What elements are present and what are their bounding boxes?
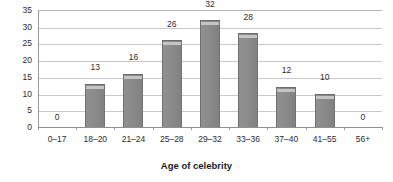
- bar-top-highlight: [277, 89, 295, 92]
- x-tick: [191, 127, 192, 130]
- x-tick-label: 33–36: [229, 134, 267, 144]
- bar-group: 0: [344, 10, 382, 127]
- y-tick-label: 5: [0, 106, 32, 115]
- x-tick: [76, 127, 77, 130]
- x-tick-label: 29–32: [191, 134, 229, 144]
- x-tick: [38, 127, 39, 130]
- y-tick-label: 10: [0, 90, 32, 99]
- x-tick: [114, 127, 115, 130]
- x-tick-label: 56+: [344, 134, 382, 144]
- bar[interactable]: [162, 40, 182, 127]
- y-tick-label: 35: [0, 6, 32, 15]
- bar-value-label: 0: [38, 113, 76, 122]
- bar-value-label: 10: [306, 73, 344, 82]
- x-tick-label: 18–20: [76, 134, 114, 144]
- bar-group: 28: [229, 10, 267, 127]
- x-axis-ticks: [38, 127, 382, 131]
- bar-value-label: 28: [229, 13, 267, 22]
- bar[interactable]: [200, 20, 220, 127]
- bar[interactable]: [276, 87, 296, 127]
- y-tick-label: 0: [0, 123, 32, 132]
- bar-group: 13: [76, 10, 114, 127]
- bar-top-highlight: [316, 96, 334, 99]
- x-tick: [344, 127, 345, 130]
- bar-top-highlight: [86, 86, 104, 89]
- y-axis: 35 30 25 20 15 10 5 0: [0, 10, 34, 127]
- bar-group: 32: [191, 10, 229, 127]
- x-tick-label: 21–24: [114, 134, 152, 144]
- x-tick-label: 41–55: [306, 134, 344, 144]
- x-tick: [382, 127, 383, 130]
- bar-group: 26: [153, 10, 191, 127]
- bar[interactable]: [238, 33, 258, 127]
- x-tick-label: 37–40: [267, 134, 305, 144]
- x-axis-title: Age of celebrity: [0, 160, 393, 171]
- bars-layer: 0 13 16 26 32 28: [38, 10, 382, 127]
- x-tick: [306, 127, 307, 130]
- bar-value-label: 13: [76, 63, 114, 72]
- bar[interactable]: [85, 84, 105, 128]
- bar[interactable]: [123, 74, 143, 128]
- x-tick: [153, 127, 154, 130]
- bar[interactable]: [315, 94, 335, 127]
- x-tick: [229, 127, 230, 130]
- bar-group: 0: [38, 10, 76, 127]
- x-tick-label: 25–28: [153, 134, 191, 144]
- bar-top-highlight: [163, 42, 181, 45]
- y-tick-label: 30: [0, 23, 32, 32]
- bar-value-label: 26: [153, 20, 191, 29]
- x-tick-label: 0–17: [38, 134, 76, 144]
- bar-value-label: 12: [267, 66, 305, 75]
- bar-chart-figure: 35 30 25 20 15 10 5 0 0 13 16: [0, 0, 393, 182]
- bar-value-label: 0: [344, 113, 382, 122]
- bar-top-highlight: [239, 35, 257, 38]
- bar-top-highlight: [124, 76, 142, 79]
- bar-group: 10: [306, 10, 344, 127]
- bar-value-label: 16: [114, 53, 152, 62]
- bar-value-label: 32: [191, 0, 229, 8]
- x-axis: 0–17 18–20 21–24 25–28 29–32 33–36 37–40…: [38, 134, 382, 148]
- bar-group: 12: [267, 10, 305, 127]
- y-tick-label: 20: [0, 56, 32, 65]
- bar-group: 16: [114, 10, 152, 127]
- x-tick: [267, 127, 268, 130]
- bar-top-highlight: [201, 22, 219, 25]
- y-tick-label: 15: [0, 73, 32, 82]
- y-tick-label: 25: [0, 39, 32, 48]
